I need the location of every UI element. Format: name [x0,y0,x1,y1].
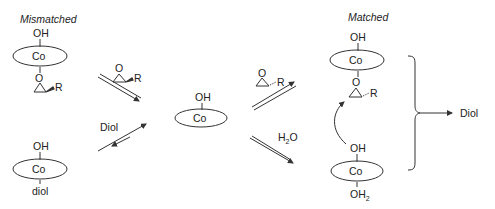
complex-top-left: OH Co O R [13,27,67,93]
r-group-label: R [55,81,63,93]
curved-arrow-icon [335,102,347,144]
hydroxide-label: OH [195,91,211,103]
cobalt-label: Co [349,54,363,66]
r-group-label: R [277,76,285,88]
hydroxide-label: OH [33,27,49,39]
matched-title: Matched [348,11,389,23]
complex-center: OH Co [175,91,227,127]
equilibrium-arrow-lower-right: H2O [250,131,298,163]
equilibrium-arrow-lower-left: Diol [98,121,146,151]
epoxide-ring-icon [256,78,269,86]
right-brace-icon [408,56,420,170]
hydroxide-label: OH [350,31,366,43]
cobalt-label: Co [32,163,46,175]
water-ligand-label: OH2 [350,188,370,202]
epoxide-ring-icon [113,74,126,82]
product-diol-label: Diol [460,107,478,119]
water-label: H2O [278,131,298,145]
complex-bottom-left: OH Co diol [13,140,67,197]
equilibrium-arrow-upper-right: O R [252,67,296,110]
complex-top-right: OH Co O R [330,31,384,99]
epoxide-ring-icon [349,88,362,97]
equilibrium-arrow-upper-left: O R [98,62,142,101]
epoxide-oxygen: O [115,62,123,74]
cobalt-label: Co [349,165,363,177]
hydroxide-label: OH [33,140,49,152]
r-group-label: R [134,72,142,84]
cobalt-label: Co [193,112,207,124]
mismatched-title: Mismatched [20,13,78,25]
r-group-label: R [370,87,378,99]
epoxide-ring-icon [34,83,46,92]
cobalt-label: Co [32,50,46,62]
epoxide-oxygen: O [352,76,360,88]
epoxide-oxygen: O [258,67,266,79]
epoxide-oxygen: O [35,72,43,84]
hydroxide-label: OH [350,142,366,154]
complex-bottom-right: OH Co OH2 [331,142,383,202]
diol-label: Diol [100,121,118,133]
diol-ligand-label: diol [32,185,48,197]
diagram-canvas: Mismatched Matched OH Co O R OH Co diol … [0,0,495,209]
